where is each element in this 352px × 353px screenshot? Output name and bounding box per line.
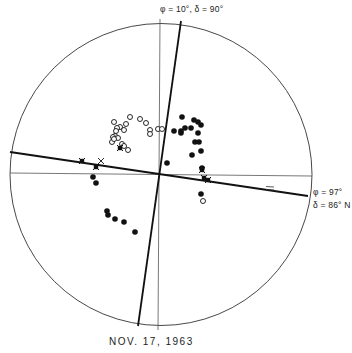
right-axis-phi-label: φ = 97° (313, 187, 342, 197)
open-crosses-marker (98, 158, 104, 164)
filled-circles-marker (179, 114, 185, 120)
filled-circles-marker (105, 212, 111, 218)
open-circles-marker (124, 122, 129, 127)
annotations (266, 187, 274, 191)
filled-circles-marker (196, 139, 202, 145)
open-circles-marker (112, 137, 117, 142)
filled-circles-marker (198, 148, 204, 154)
equals-mark-annotation (266, 187, 274, 191)
open-circles-marker (114, 129, 119, 134)
filled-circles-marker (195, 130, 201, 136)
open-circles-marker (148, 132, 153, 137)
filled-circles-marker (171, 128, 177, 134)
filled-circles-marker (182, 125, 188, 131)
open-circles-marker (138, 117, 143, 122)
open-circles-marker (128, 115, 133, 120)
crossed-markers-marker (199, 167, 205, 173)
date-caption: NOV. 17, 1963 (109, 336, 194, 347)
filled-circles-marker (90, 174, 96, 180)
crossed-markers-marker (205, 177, 211, 183)
filled-circles-marker (178, 130, 184, 136)
reference-lines (10, 19, 312, 330)
crossed-markers-marker (79, 158, 85, 164)
open-circles-marker (201, 199, 206, 204)
polar-plot (0, 0, 352, 353)
open-circles-marker (144, 121, 149, 126)
filled-circles-marker (188, 125, 194, 131)
filled-circles-marker (112, 216, 118, 222)
filled-circles-marker (132, 229, 138, 235)
filled-circles-marker (189, 152, 195, 158)
open-circles-marker (122, 128, 127, 133)
open-circles-marker (112, 120, 117, 125)
open-circles-marker (160, 127, 165, 132)
filled-circles-marker (93, 180, 99, 186)
right-axis-delta-label: δ = 86° N (313, 200, 351, 210)
filled-circles-marker (121, 219, 127, 225)
filled-circles-marker (198, 122, 204, 128)
crossed-markers-marker (93, 164, 99, 170)
top-axis-label: φ = 10°, δ = 90° (160, 4, 223, 14)
open-circles-marker (126, 148, 131, 153)
filled-circles-marker (164, 160, 170, 166)
filled-circles-marker (198, 191, 204, 197)
crossed-markers-marker (117, 145, 123, 151)
